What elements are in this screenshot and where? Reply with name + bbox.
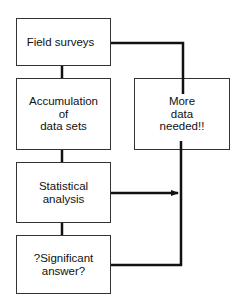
node-label-line: answer? [34, 265, 93, 278]
node-label-line: data [160, 108, 205, 121]
node-significant-answer: ?Significant answer? [16, 235, 111, 294]
node-label-line: Accumulation [29, 95, 98, 108]
node-label-line: needed!! [160, 120, 205, 133]
node-more-data-needed: More data needed!! [134, 78, 230, 150]
node-label-line: data sets [29, 120, 98, 133]
node-statistical-analysis: Statistical analysis [16, 162, 111, 223]
node-label-line: More [160, 95, 205, 108]
node-label-line: of [29, 108, 98, 121]
node-label-line: Statistical [39, 180, 88, 193]
node-accumulation: Accumulation of data sets [16, 78, 111, 150]
node-label-line: analysis [39, 193, 88, 206]
node-field-surveys: Field surveys [16, 18, 111, 66]
node-label: Field surveys [27, 36, 95, 49]
node-label-line: ?Significant [34, 252, 93, 265]
